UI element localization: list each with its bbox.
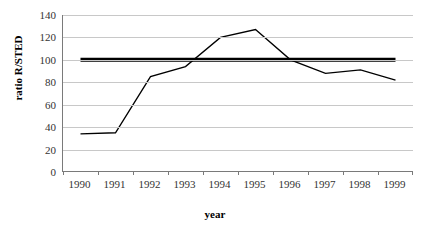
x-tick-mark <box>133 171 134 175</box>
x-tick-mark <box>308 171 309 175</box>
x-axis-title: year <box>0 208 430 220</box>
y-axis-tick-labels: 020406080100120140 <box>22 0 56 234</box>
x-tick-label: 1990 <box>60 178 100 190</box>
x-tick-mark <box>238 171 239 175</box>
x-tick-mark <box>63 171 64 175</box>
x-axis-tick-labels: 1990199119921993199419951996199719981999 <box>62 178 412 194</box>
x-tick-label: 1991 <box>95 178 135 190</box>
x-tick-label: 1994 <box>200 178 240 190</box>
x-tick-mark <box>412 171 413 175</box>
x-tick-mark <box>168 171 169 175</box>
y-tick-label: 140 <box>22 10 56 21</box>
gridline <box>63 15 413 16</box>
x-tick-label: 1993 <box>165 178 205 190</box>
x-tick-mark <box>98 171 99 175</box>
gridline <box>63 82 413 83</box>
x-tick-label: 1998 <box>340 178 380 190</box>
x-tick-label: 1995 <box>235 178 275 190</box>
x-tick-label: 1999 <box>375 178 415 190</box>
x-tick-label: 1997 <box>305 178 345 190</box>
y-tick-label: 0 <box>22 167 56 178</box>
plot-area <box>62 15 412 172</box>
x-tick-mark <box>273 171 274 175</box>
series-lines <box>63 15 413 172</box>
y-tick-label: 120 <box>22 32 56 43</box>
y-tick-label: 40 <box>22 122 56 133</box>
gridline <box>63 150 413 151</box>
line-chart: ratio R/STED 020406080100120140 19901991… <box>0 0 430 234</box>
x-tick-label: 1996 <box>270 178 310 190</box>
x-tick-mark <box>343 171 344 175</box>
gridline <box>63 60 413 61</box>
gridline <box>63 37 413 38</box>
y-tick-label: 60 <box>22 100 56 111</box>
x-tick-label: 1992 <box>130 178 170 190</box>
gridline <box>63 127 413 128</box>
y-tick-label: 100 <box>22 55 56 66</box>
gridline <box>63 105 413 106</box>
y-tick-label: 80 <box>22 77 56 88</box>
x-tick-mark <box>378 171 379 175</box>
x-tick-mark <box>203 171 204 175</box>
y-tick-label: 20 <box>22 145 56 156</box>
